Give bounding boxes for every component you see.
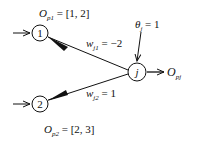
weight-label-j1: wj1 = −2 (86, 37, 122, 52)
node-j: j (128, 63, 146, 81)
output-label-node-j: Opj (167, 65, 181, 81)
node-1-label: 1 (37, 27, 43, 39)
node-2-label: 2 (37, 98, 43, 110)
bias-arrow (137, 32, 141, 61)
weight-label-j2: wj2 = 1 (86, 87, 116, 102)
edge-2-arrowhead (47, 90, 68, 101)
bias-label: θj = 1 (135, 18, 160, 33)
output-label-node-1: Op1 = [1, 2] (39, 7, 89, 22)
node-1: 1 (32, 25, 48, 41)
output-label-node-2: Op2 = [2, 3] (44, 123, 94, 138)
neural-network-diagram: 1 2 j Op1 = [1, 2] Op2 = [2, 3] Opj wj1 … (0, 0, 197, 142)
node-2: 2 (32, 96, 48, 112)
